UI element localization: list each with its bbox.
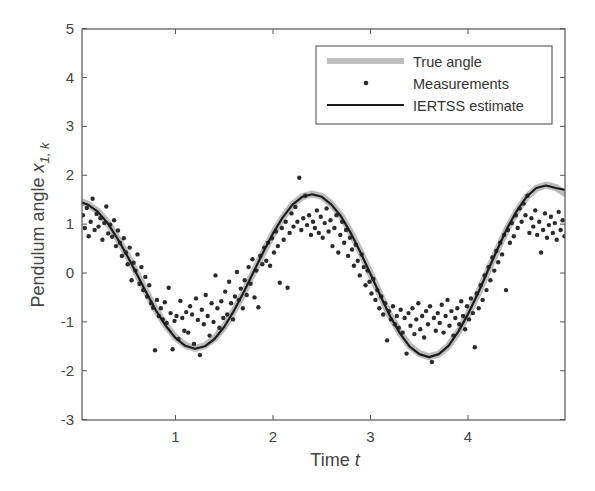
measurement-dot xyxy=(206,314,210,318)
measurement-dot xyxy=(471,311,475,315)
measurement-dot xyxy=(430,360,434,364)
x-axis-label: Time t xyxy=(310,450,360,470)
measurement-dot xyxy=(229,301,233,305)
measurement-dot xyxy=(332,226,336,230)
measurement-dot xyxy=(100,238,104,242)
measurement-dot xyxy=(358,273,362,277)
measurement-dot xyxy=(447,324,451,328)
legend-label: IERTSS estimate xyxy=(413,98,524,114)
y-tick-label: 3 xyxy=(66,117,74,134)
measurement-dot xyxy=(553,221,557,225)
measurement-dot xyxy=(207,333,211,337)
measurement-dot xyxy=(243,278,247,282)
measurement-dot xyxy=(106,231,110,235)
legend-label: Measurements xyxy=(413,76,509,92)
measurement-dot xyxy=(159,306,163,310)
measurement-dot xyxy=(172,319,176,323)
measurement-dot xyxy=(404,351,408,355)
measurement-dot xyxy=(484,288,488,292)
measurement-dot xyxy=(280,226,284,230)
measurement-dot xyxy=(85,206,89,210)
measurement-dot xyxy=(211,320,215,324)
measurement-dot xyxy=(114,244,118,248)
measurement-dot xyxy=(395,314,399,318)
measurement-dot xyxy=(293,205,297,209)
measurement-dot xyxy=(276,244,280,248)
measurement-dot xyxy=(204,293,208,297)
x-tick-label: 4 xyxy=(464,428,472,445)
measurement-dot xyxy=(455,306,459,310)
measurement-dot xyxy=(104,204,108,208)
measurement-dot xyxy=(83,226,87,230)
y-tick-label: -3 xyxy=(61,411,74,428)
measurement-dot xyxy=(531,224,535,228)
measurement-dot xyxy=(126,262,130,266)
measurement-dot xyxy=(516,226,520,230)
measurement-dot xyxy=(496,260,500,264)
legend-label: True angle xyxy=(413,54,482,70)
measurement-dot xyxy=(367,280,371,284)
measurement-dot xyxy=(328,218,332,222)
measurement-dot xyxy=(245,293,249,297)
measurement-dot xyxy=(116,228,120,232)
measurement-dot xyxy=(250,257,254,261)
measurement-dot xyxy=(469,296,473,300)
measurement-dot xyxy=(324,206,328,210)
measurement-dot xyxy=(512,234,516,238)
measurement-dot xyxy=(424,309,428,313)
measurement-dot xyxy=(441,330,445,334)
measurement-dot xyxy=(252,295,256,299)
measurement-dot xyxy=(436,311,440,315)
measurement-dot xyxy=(399,308,403,312)
measurement-dot xyxy=(198,353,202,357)
measurement-dot xyxy=(268,264,272,268)
measurement-dot xyxy=(184,310,188,314)
measurement-dot xyxy=(488,278,492,282)
measurement-dot xyxy=(139,265,143,269)
y-tick-label: 5 xyxy=(66,20,74,37)
measurement-dot xyxy=(239,286,243,290)
measurement-dot xyxy=(223,289,227,293)
measurement-dot xyxy=(313,226,317,230)
measurement-dot xyxy=(110,235,114,239)
measurement-dot xyxy=(410,306,414,310)
measurement-dot xyxy=(225,312,229,316)
measurement-dot xyxy=(319,215,323,219)
measurement-dot xyxy=(418,327,422,331)
measurement-dot xyxy=(416,301,420,305)
measurement-dot xyxy=(96,224,100,228)
measurement-dot xyxy=(120,254,124,258)
measurement-dot xyxy=(170,347,174,351)
measurement-dot xyxy=(480,298,484,302)
measurement-dot xyxy=(264,259,268,263)
y-axis-label: Pendulum angle x1, k xyxy=(28,141,52,308)
measurement-dot xyxy=(342,241,346,245)
measurement-dot xyxy=(336,250,340,254)
measurement-dot xyxy=(256,305,260,309)
measurement-dot xyxy=(549,215,553,219)
measurement-dot xyxy=(467,317,471,321)
measurement-dot xyxy=(326,229,330,233)
y-tick-label: -1 xyxy=(61,313,74,330)
measurement-dot xyxy=(112,218,116,222)
measurement-dot xyxy=(174,314,178,318)
measurement-dot xyxy=(282,238,286,242)
measurement-dot xyxy=(143,275,147,279)
measurement-dot xyxy=(87,234,91,238)
measurement-dot xyxy=(135,252,139,256)
measurement-dot xyxy=(278,281,282,285)
measurement-dot xyxy=(297,176,301,180)
measurement-dot xyxy=(434,329,438,333)
measurement-dot xyxy=(535,233,539,237)
measurement-dot xyxy=(317,231,321,235)
measurement-dot xyxy=(233,294,237,298)
measurement-dot xyxy=(558,228,562,232)
measurement-dot xyxy=(350,247,354,251)
measurement-dot xyxy=(443,314,447,318)
y-tick-label: 2 xyxy=(66,166,74,183)
measurement-dot xyxy=(465,304,469,308)
measurement-dot xyxy=(295,220,299,224)
measurement-dot xyxy=(90,197,94,201)
measurement-dot xyxy=(412,332,416,336)
measurement-dot xyxy=(459,299,463,303)
